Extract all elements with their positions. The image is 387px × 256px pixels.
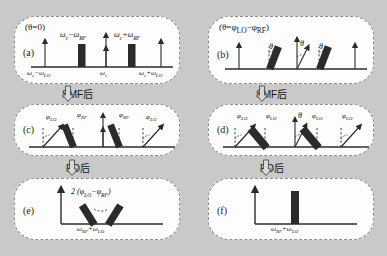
- panel-c-phase-label-1: φLO: [46, 113, 56, 122]
- flow-arrow-smf-right: SMF后: [256, 86, 287, 101]
- panel-b-angle-label-1: θ: [269, 42, 273, 51]
- panel-a-bar-usb: [128, 44, 136, 67]
- down-arrow-icon: [66, 160, 78, 176]
- panel-d-lo-2: [341, 126, 360, 147]
- right-column: (θ=φLO−φRF) (b): [194, 0, 387, 256]
- panel-f-bar: [291, 191, 299, 224]
- panel-a-bar-lsb: [78, 44, 86, 67]
- panel-c-lo-left: [43, 126, 62, 147]
- flow-arrow-smf-left: SMF后: [62, 86, 93, 101]
- panel-a-axis-label-3: ωc+ωLO: [139, 69, 162, 78]
- down-arrow-icon: [62, 86, 74, 102]
- panel-b-spectrum: [209, 17, 375, 85]
- panel-e-bar-left: [79, 203, 98, 226]
- panel-c-phase-label-4: φLO: [146, 113, 156, 122]
- panel-c-rf-left: [61, 123, 76, 148]
- panel-e-axis-label: ωRF+ωLO: [77, 225, 104, 234]
- panel-f: (f) ωRF+ωLO: [208, 178, 374, 240]
- panel-c-lo-right: [143, 126, 162, 147]
- panel-b-theta-carrier: [297, 47, 308, 69]
- flow-arrow-pd-right: PD后: [260, 160, 284, 175]
- panel-d-phase-label-3: φLO: [312, 112, 322, 121]
- panel-d-phase-label-2: φLO: [266, 112, 276, 121]
- panel-a-axis-label-1: ωc−ωLO: [27, 69, 50, 78]
- figure-root: (θ=0) (a) ωc−ωRF ωc+ωRF: [0, 0, 387, 256]
- panel-b-angle-label-2: θ: [300, 39, 304, 48]
- panel-e: (e) 2 (φLO−φRF) ωRF+ωLO: [14, 178, 180, 240]
- panel-c-phase-label-2: φRF: [77, 111, 87, 120]
- panel-d-phase-label-1: φLO: [237, 112, 247, 121]
- left-column: (θ=0) (a) ωc−ωRF ωc+ωRF: [0, 0, 193, 256]
- panel-c-phase-label-3: φRF: [119, 111, 129, 120]
- panel-c: (c): [14, 104, 180, 156]
- panel-b-angle-label-3: θ: [319, 42, 323, 51]
- panel-b: (θ=φLO−φRF) (b): [208, 16, 374, 84]
- panel-d-angle-label: θ: [298, 111, 302, 120]
- panel-c-rf-right: [107, 123, 122, 148]
- down-arrow-icon: [256, 86, 268, 102]
- panel-a-axis-label-2: ωc: [100, 69, 107, 78]
- panel-f-axis-label: ωRF+ωLO: [271, 225, 298, 234]
- panel-e-angle-arc: [94, 209, 108, 211]
- panel-d-phase-label-4: φLO: [342, 112, 352, 121]
- panel-a: (θ=0) (a) ωc−ωRF ωc+ωRF: [14, 16, 180, 84]
- panel-d: (d): [208, 104, 374, 156]
- down-arrow-icon: [260, 160, 272, 176]
- flow-arrow-pd-left: PD后: [66, 160, 90, 175]
